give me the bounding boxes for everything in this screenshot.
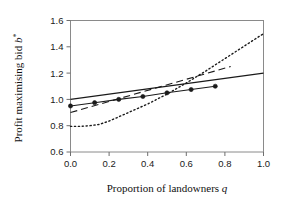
data-point xyxy=(141,94,145,98)
y-axis-title-superscript: * xyxy=(12,34,21,38)
series-dotted-curve xyxy=(71,34,264,127)
x-axis-title-symbol: q xyxy=(222,182,228,194)
x-tick-label: 0.6 xyxy=(180,158,193,169)
svg-text:Profit maximising bid b*: Profit maximising bid b* xyxy=(12,34,24,143)
x-tick-label: 1.0 xyxy=(257,158,270,169)
y-tick-label: 1.2 xyxy=(50,68,63,79)
y-axis-title: Profit maximising bid b* xyxy=(12,34,24,143)
data-series-layer xyxy=(68,34,263,127)
data-point xyxy=(165,91,169,95)
y-tick-label: 0.6 xyxy=(50,146,63,157)
x-axis-tick-labels: 0.00.20.40.60.81.0 xyxy=(64,158,270,169)
y-axis-title-text: Profit maximising bid xyxy=(12,45,24,142)
x-tick-label: 0.4 xyxy=(141,158,154,169)
y-tick-label: 1.0 xyxy=(50,94,63,105)
y-tick-label: 1.4 xyxy=(50,41,63,52)
data-point xyxy=(117,97,121,101)
y-axis-ticks xyxy=(67,21,71,153)
y-axis-tick-labels: 0.60.81.01.21.41.6 xyxy=(50,15,63,158)
x-axis-title-text: Proportion of landowners xyxy=(107,182,219,194)
data-point xyxy=(189,87,193,91)
data-point xyxy=(213,84,217,88)
x-tick-label: 0.0 xyxy=(64,158,77,169)
series-solid-line xyxy=(71,73,264,99)
x-tick-label: 0.2 xyxy=(102,158,115,169)
svg-text:Proportion of landowners q: Proportion of landowners q xyxy=(107,182,228,194)
x-axis-title: Proportion of landowners q xyxy=(107,182,228,194)
series-dashed-line xyxy=(71,67,231,113)
x-axis-ticks xyxy=(71,152,264,156)
chart-canvas: 0.60.81.01.21.41.6 0.00.20.40.60.81.0 Pr… xyxy=(0,0,283,213)
chart-figure: 0.60.81.01.21.41.6 0.00.20.40.60.81.0 Pr… xyxy=(0,0,283,213)
x-tick-label: 0.8 xyxy=(218,158,231,169)
y-tick-label: 1.6 xyxy=(50,15,63,26)
data-point xyxy=(68,104,72,108)
data-point xyxy=(93,101,97,105)
y-tick-label: 0.8 xyxy=(50,120,63,131)
